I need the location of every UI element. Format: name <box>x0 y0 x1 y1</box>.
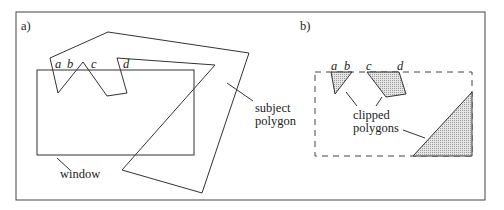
panel-b-label: b) <box>300 19 310 33</box>
clip-window-rect <box>37 70 194 155</box>
clipped-label-line1: clipped <box>353 108 391 122</box>
vertex-label-d: d <box>123 57 130 71</box>
vertex-label-a: a <box>55 57 61 71</box>
clipped-polygon-ab <box>331 72 352 94</box>
vertex-label-d: d <box>397 59 404 73</box>
clipped-label-line2: polygons <box>353 121 399 135</box>
clipped-leader-line-1 <box>346 92 357 106</box>
subject-label-line2: polygon <box>255 114 297 128</box>
vertex-label-c: c <box>366 59 372 73</box>
subject-label-line1: subject <box>255 101 291 115</box>
clipped-leader-line-3 <box>403 130 425 138</box>
clipped-polygon-corner <box>413 92 472 156</box>
vertex-label-a: a <box>331 59 337 73</box>
vertex-label-c: c <box>91 57 97 71</box>
panel-b: b) a b c d clipped polygons <box>300 19 472 156</box>
vertex-label-b: b <box>344 59 350 73</box>
subject-leader-line <box>227 83 253 101</box>
panel-a-label: a) <box>21 19 31 33</box>
panel-a: a) a b c d window subject polygon <box>21 19 297 193</box>
vertex-label-b: b <box>67 57 73 71</box>
clipped-leader-line-2 <box>376 97 382 106</box>
polygon-clipping-figure: a) a b c d window subject polygon b) a b… <box>0 0 504 210</box>
window-label: window <box>60 167 100 181</box>
clipped-polygon-cd <box>367 72 406 97</box>
